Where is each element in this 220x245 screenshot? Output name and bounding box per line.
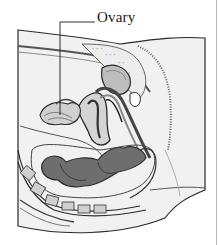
page-edge-rule: [216, 0, 217, 245]
anatomical-illustration: ˅ ˄ ˅˄ ˅ ˄ ˅ ˄˄ ˅: [0, 0, 220, 245]
svg-text:˄ ˅ ˄: ˄ ˅ ˄: [105, 53, 116, 59]
svg-text:˅ ˄ ˅: ˅ ˄ ˅: [92, 47, 103, 53]
ovary-label: Ovary: [97, 9, 136, 26]
pelvis-section-drawing: ˅ ˄ ˅˄ ˅ ˄ ˅ ˄˄ ˅: [0, 0, 220, 245]
